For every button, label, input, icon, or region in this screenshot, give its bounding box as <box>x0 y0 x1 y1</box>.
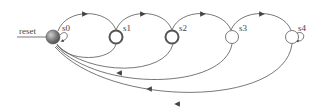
state-label: s2 <box>179 23 187 33</box>
state-label: s4 <box>298 23 307 33</box>
state-diagram: reset s0 s1 s2 s3 s4 <box>0 0 320 112</box>
reset-label: reset <box>19 26 36 36</box>
self-loop-s0 <box>60 33 67 41</box>
state-label: s3 <box>239 23 248 33</box>
edge-s1-s0 <box>57 44 116 58</box>
reset-input: reset <box>17 26 48 37</box>
state-s1[interactable]: s1 <box>110 23 132 44</box>
state-s2[interactable]: s2 <box>166 23 188 44</box>
state-label: s0 <box>62 23 71 33</box>
state-label: s1 <box>123 23 131 33</box>
edge-s3-s0 <box>56 44 232 80</box>
